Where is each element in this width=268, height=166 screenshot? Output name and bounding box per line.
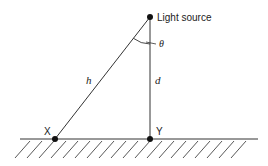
light-geometry-diagram: Light source θ h d X Y	[0, 0, 268, 166]
theta-label: θ	[159, 38, 164, 49]
h-label: h	[86, 74, 92, 86]
d-label: d	[155, 74, 161, 86]
angle-arc	[133, 38, 150, 44]
x-label: X	[44, 126, 51, 137]
hypotenuse-h	[55, 17, 150, 139]
point-y-dot	[147, 136, 153, 142]
y-label: Y	[156, 126, 163, 137]
point-x-dot	[52, 136, 58, 142]
light-source-dot	[147, 14, 153, 20]
ground-hatching	[15, 141, 246, 158]
light-source-label: Light source	[157, 12, 212, 23]
